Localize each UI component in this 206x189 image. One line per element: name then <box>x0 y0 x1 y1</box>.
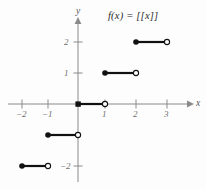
x-axis-label: x <box>196 99 200 109</box>
step-segment-one <box>102 70 138 76</box>
step-segment-two <box>133 39 169 45</box>
y-axis-label: y <box>76 7 80 17</box>
x-tick-label-1: 1 <box>102 110 107 119</box>
function-formula-label: f(x) = [[x]] <box>108 11 158 22</box>
x-tick-label-3: 3 <box>164 110 169 119</box>
x-tick-label-neg2: −2 <box>16 110 27 119</box>
x-tick-label-neg1: −1 <box>42 110 53 119</box>
step-segment-neg1 <box>45 132 80 138</box>
y-tick-label-2: 2 <box>64 38 69 47</box>
y-tick-label-1: 1 <box>64 69 69 78</box>
step-segment-neg2 <box>19 163 50 169</box>
x-tick-label-2: 2 <box>133 110 138 119</box>
y-tick-label-neg2: −2 <box>60 162 71 171</box>
plot-canvas <box>0 0 206 189</box>
floor-function-figure: f(x) = [[x]] −2 −1 1 2 3 2 1 −2 x y <box>0 0 206 189</box>
step-segment-zero <box>75 101 107 106</box>
